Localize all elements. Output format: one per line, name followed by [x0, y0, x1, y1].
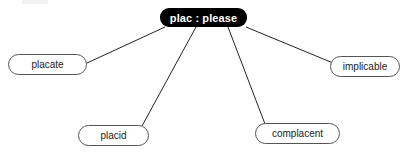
leaf-node-placid[interactable]: placid [78, 125, 149, 146]
leaf-node-label-complacent: complacent [272, 128, 323, 139]
leaf-node-placate[interactable]: placate [8, 54, 87, 75]
word-root-diagram: plac : please placate placid complacent … [0, 0, 408, 157]
edge-root-to-complacent [228, 27, 265, 124]
root-node-plac-please[interactable]: plac : please [160, 8, 247, 27]
edge-root-to-placid [142, 27, 196, 126]
scan-artifact [22, 0, 48, 4]
leaf-node-label-placid: placid [100, 130, 126, 141]
leaf-node-label-implicable: implicable [343, 61, 387, 72]
edge-root-to-implicable [246, 27, 333, 63]
root-node-label: plac : please [170, 12, 237, 24]
edge-root-to-placate [87, 27, 165, 63]
leaf-node-complacent[interactable]: complacent [255, 123, 340, 144]
leaf-node-implicable[interactable]: implicable [330, 56, 400, 77]
leaf-node-label-placate: placate [31, 59, 63, 70]
